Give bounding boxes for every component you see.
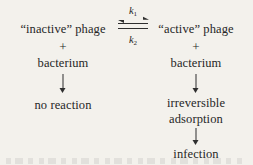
irreversible-label: irreversible <box>167 96 225 110</box>
no-reaction-label: no reaction <box>35 98 92 112</box>
left-bacterium-label: bacterium <box>38 56 89 70</box>
reversible-reaction-arrow-icon <box>118 20 148 33</box>
right-down-arrow-icon-2 <box>192 128 201 146</box>
reaction-scheme-diagram: “inactive” phage + bacterium no reaction… <box>0 0 253 165</box>
inactive-phage-label: “inactive” phage <box>20 22 105 36</box>
reverse-rate-constant: k2 <box>129 34 137 49</box>
right-plus-symbol: + <box>192 40 199 53</box>
left-down-arrow-icon <box>59 74 68 94</box>
active-phage-label: “active” phage <box>158 22 233 36</box>
right-bacterium-label: bacterium <box>171 56 222 70</box>
forward-rate-constant: k1 <box>129 5 137 20</box>
reverse-rate-subscript: 2 <box>134 39 138 47</box>
scan-bleedthrough-artifact <box>6 158 246 164</box>
adsorption-label: adsorption <box>169 112 223 126</box>
right-down-arrow-icon-1 <box>192 74 201 94</box>
forward-rate-subscript: 1 <box>134 10 138 18</box>
left-plus-symbol: + <box>59 40 66 53</box>
